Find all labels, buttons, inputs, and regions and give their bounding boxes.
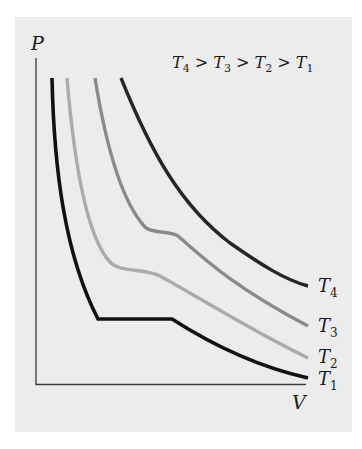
pv-isotherm-chart: P V T4 > T3 > T2 > T1 T4 T3 T2 T1 bbox=[0, 0, 362, 449]
x-axis-label: V bbox=[292, 391, 308, 413]
chart-title: T4 > T3 > T2 > T1 bbox=[172, 53, 313, 75]
y-axis-label: P bbox=[30, 32, 45, 54]
isotherm-t4 bbox=[121, 78, 308, 286]
label-t3: T3 bbox=[318, 315, 338, 340]
label-t1: T1 bbox=[318, 368, 338, 393]
isotherm-t3 bbox=[95, 78, 308, 326]
label-t4: T4 bbox=[318, 275, 338, 300]
